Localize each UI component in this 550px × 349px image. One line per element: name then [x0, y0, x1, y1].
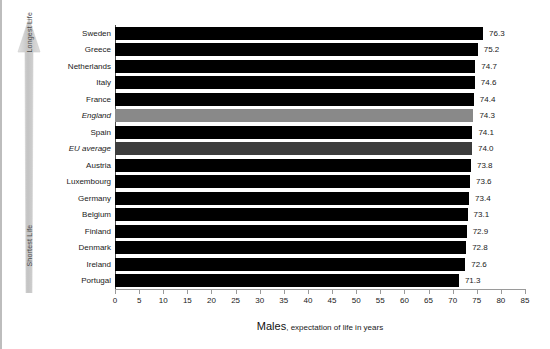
- bar-belgium: [115, 208, 468, 221]
- category-label-spain: Spain: [11, 126, 111, 139]
- x-axis-title-lead: Males: [257, 320, 286, 332]
- category-label-germany: Germany: [11, 192, 111, 205]
- value-label-ireland: 72.6: [471, 258, 487, 271]
- value-label-italy: 74.6: [481, 76, 497, 89]
- category-label-greece: Greece: [11, 43, 111, 56]
- category-label-ireland: Ireland: [11, 258, 111, 271]
- bar-denmark: [115, 241, 466, 254]
- x-tick-label: 55: [376, 296, 385, 305]
- category-label-denmark: Denmark: [11, 241, 111, 254]
- bar-netherlands: [115, 60, 475, 73]
- value-label-finland: 72.9: [473, 225, 489, 238]
- bar-luxembourg: [115, 175, 470, 188]
- x-tick: [332, 289, 333, 294]
- x-axis-line: [115, 289, 525, 290]
- x-tick-label: 25: [231, 296, 240, 305]
- x-tick: [501, 289, 502, 294]
- x-tick-label: 65: [424, 296, 433, 305]
- bar-france: [115, 93, 474, 106]
- x-tick-label: 30: [255, 296, 264, 305]
- x-tick: [404, 289, 405, 294]
- x-tick: [139, 289, 140, 294]
- category-label-sweden: Sweden: [11, 27, 111, 40]
- x-tick: [115, 289, 116, 294]
- x-tick-label: 85: [521, 296, 530, 305]
- value-label-austria: 73.8: [477, 159, 493, 172]
- x-tick-label: 70: [448, 296, 457, 305]
- bar-eu-average: [115, 142, 472, 155]
- value-label-germany: 73.4: [475, 192, 491, 205]
- x-tick-label: 35: [279, 296, 288, 305]
- x-tick: [453, 289, 454, 294]
- category-label-austria: Austria: [11, 159, 111, 172]
- value-label-luxembourg: 73.6: [476, 175, 492, 188]
- category-label-france: France: [11, 93, 111, 106]
- category-label-finland: Finland: [11, 225, 111, 238]
- value-label-france: 74.4: [480, 93, 496, 106]
- bar-portugal: [115, 274, 459, 287]
- x-tick: [380, 289, 381, 294]
- value-label-greece: 75.2: [484, 43, 500, 56]
- category-label-eu-average: EU average: [11, 142, 111, 155]
- value-label-sweden: 76.3: [489, 27, 505, 40]
- x-tick: [356, 289, 357, 294]
- x-tick-label: 15: [183, 296, 192, 305]
- bar-italy: [115, 76, 475, 89]
- category-label-england: England: [11, 109, 111, 122]
- category-axis-labels: SwedenGreeceNetherlandsItalyFranceEnglan…: [7, 25, 111, 289]
- x-tick-label: 50: [352, 296, 361, 305]
- x-tick: [308, 289, 309, 294]
- value-label-spain: 74.1: [478, 126, 494, 139]
- bar-germany: [115, 192, 469, 205]
- x-tick: [236, 289, 237, 294]
- bar-sweden: [115, 27, 483, 40]
- category-label-netherlands: Netherlands: [11, 60, 111, 73]
- bar-chart-figure: Longest Life Shortest Life SwedenGreeceN…: [0, 0, 550, 349]
- x-tick: [211, 289, 212, 294]
- value-label-portugal: 71.3: [465, 274, 481, 287]
- x-tick-label: 40: [303, 296, 312, 305]
- x-tick: [163, 289, 164, 294]
- category-label-portugal: Portugal: [11, 274, 111, 287]
- x-tick-label: 0: [113, 296, 117, 305]
- x-tick-label: 45: [328, 296, 337, 305]
- bar-austria: [115, 159, 471, 172]
- plot-area: [115, 25, 525, 289]
- x-tick-label: 75: [472, 296, 481, 305]
- category-label-belgium: Belgium: [11, 208, 111, 221]
- category-label-luxembourg: Luxembourg: [11, 175, 111, 188]
- value-label-belgium: 73.1: [474, 208, 490, 221]
- bar-finland: [115, 225, 467, 238]
- x-tick: [429, 289, 430, 294]
- x-tick-label: 5: [137, 296, 141, 305]
- value-label-eu-average: 74.0: [478, 142, 494, 155]
- x-tick-label: 20: [207, 296, 216, 305]
- x-axis-title-rest: , expectation of life in years: [286, 323, 383, 332]
- value-label-england: 74.3: [479, 109, 495, 122]
- x-tick: [525, 289, 526, 294]
- category-label-italy: Italy: [11, 76, 111, 89]
- x-tick: [284, 289, 285, 294]
- x-tick-label: 80: [496, 296, 505, 305]
- bar-spain: [115, 126, 472, 139]
- x-tick: [187, 289, 188, 294]
- x-tick-label: 10: [159, 296, 168, 305]
- bar-ireland: [115, 258, 465, 271]
- x-tick: [260, 289, 261, 294]
- x-tick: [477, 289, 478, 294]
- bar-england: [115, 109, 473, 122]
- x-tick-label: 60: [400, 296, 409, 305]
- bar-greece: [115, 43, 478, 56]
- x-axis-title: Males, expectation of life in years: [115, 320, 525, 332]
- value-label-denmark: 72.8: [472, 241, 488, 254]
- value-label-netherlands: 74.7: [481, 60, 497, 73]
